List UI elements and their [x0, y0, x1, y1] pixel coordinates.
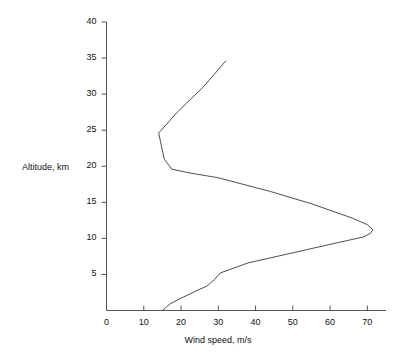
y-tick-label: 10 [73, 232, 97, 242]
x-tick-label: 20 [166, 317, 196, 327]
x-tick-label: 10 [129, 317, 159, 327]
y-tick-label: 5 [73, 268, 97, 278]
x-axis-title: Wind speed, m/s [20, 335, 396, 345]
x-axis-ticks [107, 306, 368, 311]
y-tick-label: 25 [73, 124, 97, 134]
y-axis-title: Altitude, km [22, 162, 69, 172]
y-tick-label: 40 [73, 16, 97, 26]
x-tick-label: 0 [92, 317, 122, 327]
wind-speed-altitude-chart: 510152025303540 010203040506070 Altitude… [0, 0, 396, 364]
y-tick-label: 35 [73, 52, 97, 62]
x-tick-label: 70 [352, 317, 382, 327]
x-tick-label: 40 [241, 317, 271, 327]
y-axis-ticks [102, 22, 107, 274]
y-tick-label: 15 [73, 196, 97, 206]
x-tick-label: 50 [278, 317, 308, 327]
plot-area [0, 0, 396, 364]
wind-speed-profile-line [159, 61, 373, 311]
x-tick-label: 60 [315, 317, 345, 327]
x-tick-label: 30 [203, 317, 233, 327]
y-tick-label: 20 [73, 160, 97, 170]
y-tick-label: 30 [73, 88, 97, 98]
